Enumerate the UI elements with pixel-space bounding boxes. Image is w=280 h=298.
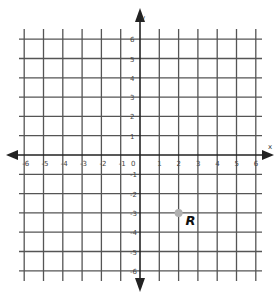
x-axis-right-arrow-icon [262, 150, 274, 160]
y-tick-label: 1 [130, 133, 134, 141]
point-r-marker [175, 209, 183, 217]
x-tick-label: 6 [254, 160, 259, 168]
x-tick-label: 3 [196, 160, 200, 168]
y-tick-label: -6 [130, 268, 138, 276]
x-tick-label: 5 [235, 160, 239, 168]
x-tick-label: -3 [80, 160, 87, 168]
x-tick-label: -6 [22, 160, 30, 168]
x-tick-label: -1 [119, 160, 126, 168]
y-axis-down-arrow-icon [135, 278, 145, 292]
y-tick-label: 3 [130, 94, 134, 102]
x-tick-label: -4 [61, 160, 69, 168]
x-axis-left-arrow-icon [6, 150, 18, 160]
y-tick-label: -4 [130, 229, 138, 237]
y-tick-label: 4 [130, 75, 135, 83]
y-tick-labels: 654321-1-2-3-4-5-6 [130, 36, 138, 276]
y-tick-label: -3 [130, 210, 137, 218]
y-tick-label: 5 [130, 56, 134, 64]
y-tick-label: -2 [130, 191, 137, 199]
x-axis-label: x [268, 143, 272, 151]
x-tick-label: 1 [157, 160, 161, 168]
y-tick-label: 2 [130, 113, 134, 121]
y-axis-label: y [141, 14, 145, 22]
x-tick-label: -5 [42, 160, 49, 168]
coordinate-plane: x y -6-5-4-3-2-10123456 654321-1-2-3-4-5… [0, 0, 280, 298]
y-tick-label: -1 [130, 171, 137, 179]
x-tick-label: 4 [215, 160, 220, 168]
y-tick-label: 6 [130, 36, 135, 44]
x-tick-label: 2 [177, 160, 181, 168]
x-tick-label: 0 [131, 160, 135, 168]
x-tick-label: -2 [99, 160, 106, 168]
y-tick-label: -5 [130, 249, 137, 257]
point-r-label: R [186, 213, 196, 228]
